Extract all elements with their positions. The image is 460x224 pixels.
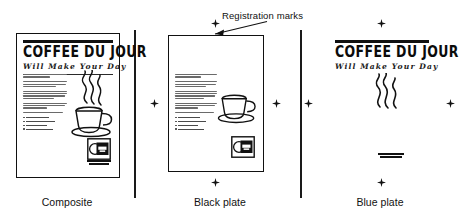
list-item (175, 117, 217, 119)
list-item (23, 128, 67, 130)
caption-composite: Composite (0, 196, 134, 208)
registration-mark-left (150, 99, 159, 108)
panel-black-plate (168, 35, 264, 172)
list-item (23, 117, 67, 119)
body-paragraph (175, 112, 217, 113)
black-plate-content (169, 36, 263, 171)
list-item (175, 125, 217, 127)
body-paragraph (175, 103, 217, 109)
body-paragraph (175, 81, 217, 87)
registration-mark-right (446, 99, 455, 108)
panel-composite: COFFEE DU JOUR Will Make Your Day (16, 33, 120, 178)
body-paragraph (23, 91, 67, 100)
bullet-dot (23, 121, 25, 123)
list-item (175, 121, 217, 123)
composite-body-copy (23, 74, 67, 132)
composite-logo-badge (83, 138, 115, 170)
panel-blue-plate: COFFEE DU JOUR Will Make Your Day (326, 35, 438, 172)
blue-plate-tagline (374, 153, 408, 158)
flyer-title: COFFEE DU JOUR (335, 45, 429, 60)
black-plate-page-sheet (168, 35, 264, 172)
flyer-subtitle: Will Make Your Day (335, 63, 429, 71)
body-paragraph (23, 74, 67, 78)
blue-plate-page-sheet: COFFEE DU JOUR Will Make Your Day (326, 35, 438, 172)
caption-black-plate: Black plate (145, 196, 295, 208)
caption-blue-plate: Blue plate (305, 196, 455, 208)
coffee-shop-logo-icon (87, 138, 111, 160)
registration-mark-top (377, 19, 386, 28)
registration-mark-top (211, 19, 220, 28)
body-paragraph (23, 112, 67, 113)
body-paragraph (23, 81, 67, 87)
bullet-dot (175, 121, 177, 123)
body-paragraph (175, 74, 217, 78)
bullet-dot (23, 117, 25, 119)
list-item (23, 121, 67, 123)
steam-swirl-icon (374, 73, 408, 109)
bullet-dot (175, 125, 177, 127)
bullet-dot (23, 125, 25, 127)
blue-plate-masthead: COFFEE DU JOUR Will Make Your Day (331, 40, 433, 71)
registration-mark-right (272, 99, 281, 108)
logo-tagline (83, 160, 115, 165)
flyer-title: COFFEE DU JOUR (23, 45, 113, 60)
panel-divider-2 (300, 30, 302, 198)
registration-mark-bottom (211, 178, 220, 187)
composite-page-sheet: COFFEE DU JOUR Will Make Your Day (16, 33, 120, 178)
figure-canvas: Registration marks COFFEE DU JOUR Will M… (0, 0, 460, 224)
black-plate-logo-badge (227, 136, 259, 166)
body-paragraph (23, 103, 67, 109)
composite-bullet-list (23, 117, 67, 131)
body-paragraph (175, 91, 217, 100)
coffee-cup-icon (212, 88, 262, 128)
coffee-shop-logo-icon (231, 136, 255, 158)
bullet-dot (23, 128, 25, 130)
bullet-dot (175, 128, 177, 130)
list-item (175, 128, 217, 130)
black-plate-bullet-list (175, 117, 217, 131)
coffee-cup-icon (65, 70, 119, 138)
registration-mark-left (304, 99, 313, 108)
registration-mark-bottom (377, 178, 386, 187)
list-item (23, 125, 67, 127)
black-plate-body-copy (175, 74, 217, 132)
composite-page-content: COFFEE DU JOUR Will Make Your Day (17, 34, 119, 177)
bullet-dot (175, 117, 177, 119)
blue-plate-content: COFFEE DU JOUR Will Make Your Day (326, 35, 438, 172)
